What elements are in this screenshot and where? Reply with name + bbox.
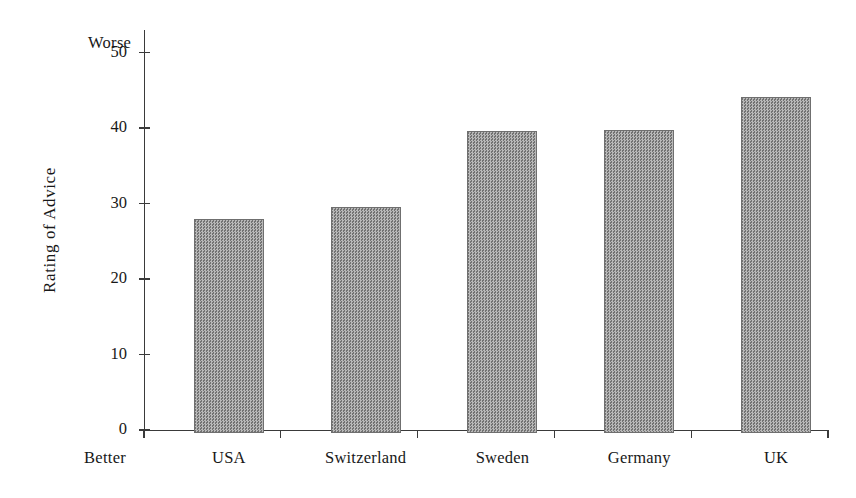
plot-area: 01020304050 USASwitzerlandSwedenGermanyU… (144, 30, 828, 433)
bar-uk (741, 97, 811, 433)
y-axis-line (144, 30, 145, 430)
x-label-uk: UK (686, 448, 856, 468)
y-tick-label-20: 20 (111, 268, 128, 288)
y-axis-title: Rating of Advice (40, 130, 62, 330)
x-tick-5 (827, 430, 828, 438)
bar-usa (194, 219, 264, 433)
y-tick-label-50: 50 (111, 42, 128, 62)
scale-anchor-better: Better (84, 448, 126, 468)
x-tick-4 (691, 430, 692, 438)
y-tick-40: 40 (139, 127, 150, 128)
bar-sweden (467, 131, 537, 433)
bar-germany (604, 130, 674, 433)
bar-chart: Rating of Advice Worse Better 0102030405… (0, 0, 856, 498)
bar-switzerland (331, 207, 401, 433)
y-tick-label-10: 10 (111, 344, 128, 364)
x-tick-1 (280, 430, 281, 438)
y-tick-30: 30 (139, 203, 150, 204)
x-tick-3 (554, 430, 555, 438)
y-tick-label-30: 30 (111, 193, 128, 213)
x-tick-0 (143, 430, 144, 438)
y-tick-label-0: 0 (119, 419, 127, 439)
x-tick-2 (417, 430, 418, 438)
y-tick-10: 10 (139, 354, 150, 355)
y-tick-50: 50 (139, 52, 150, 53)
y-tick-label-40: 40 (111, 117, 128, 137)
y-tick-20: 20 (139, 278, 150, 279)
